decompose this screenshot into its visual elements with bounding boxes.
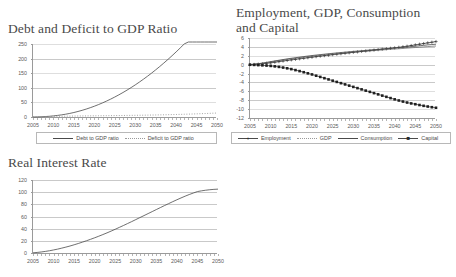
series-marker-square bbox=[435, 106, 438, 109]
x-axis-minor-tick bbox=[287, 119, 288, 121]
series-marker-square bbox=[249, 63, 252, 66]
legend-label: GDP bbox=[320, 135, 338, 141]
legend-item[interactable]: Deficit to GDP ratio bbox=[125, 135, 200, 141]
x-axis-minor-tick bbox=[37, 254, 38, 256]
x-axis-minor-tick bbox=[320, 119, 321, 121]
series-marker-square bbox=[398, 99, 401, 102]
x-axis-minor-tick bbox=[362, 119, 363, 121]
series-marker-square bbox=[364, 89, 367, 92]
x-axis-minor-tick bbox=[139, 118, 140, 120]
x-axis-minor-tick bbox=[419, 119, 420, 121]
x-axis-minor-tick bbox=[193, 254, 194, 256]
x-axis-minor-tick bbox=[188, 118, 189, 120]
plot-area-debt-deficit: 2502001501005002005201020152020202520302… bbox=[0, 0, 228, 146]
x-axis-minor-tick bbox=[329, 119, 330, 121]
x-axis-minor-tick bbox=[312, 119, 313, 121]
x-axis-minor-tick bbox=[308, 119, 309, 121]
legend-item[interactable]: Debt to GDP ratio bbox=[53, 135, 124, 141]
x-axis-minor-tick bbox=[74, 254, 75, 256]
x-axis-minor-tick bbox=[164, 118, 165, 120]
series-marker-square bbox=[352, 86, 355, 89]
x-axis-minor-tick bbox=[213, 118, 214, 120]
x-axis-minor-tick bbox=[206, 254, 207, 256]
series-marker-square bbox=[381, 94, 384, 97]
x-axis-minor-tick bbox=[143, 118, 144, 120]
series-marker-square bbox=[278, 66, 281, 69]
x-axis-minor-tick bbox=[74, 118, 75, 120]
x-axis-minor-tick bbox=[218, 254, 219, 256]
series-marker-square bbox=[290, 68, 293, 71]
x-axis-minor-tick bbox=[279, 119, 280, 121]
series-marker-square bbox=[348, 84, 351, 87]
chart-panel-employment-gdp: Employment, GDP, Consumption and Capital… bbox=[228, 0, 456, 150]
x-axis-minor-tick bbox=[82, 254, 83, 256]
legend-item[interactable]: +Employment bbox=[238, 135, 297, 141]
x-axis-minor-tick bbox=[399, 119, 400, 121]
legend-label: Consumption bbox=[361, 135, 399, 141]
legend-employment-gdp: +EmploymentGDPConsumption■Capital bbox=[231, 132, 451, 144]
x-axis-minor-tick bbox=[386, 119, 387, 121]
series-marker-square bbox=[340, 82, 343, 85]
series-layer bbox=[33, 180, 218, 253]
x-axis-minor-tick bbox=[202, 254, 203, 256]
series-marker-square bbox=[422, 105, 425, 108]
x-axis-minor-tick bbox=[86, 118, 87, 120]
plot-area-real-interest-rate: 1201008060402002005201020152020202520302… bbox=[0, 148, 240, 277]
x-axis-minor-tick bbox=[177, 254, 178, 256]
series-marker-square bbox=[373, 92, 376, 95]
x-axis-minor-tick bbox=[333, 119, 334, 121]
x-axis-minor-tick bbox=[180, 118, 181, 120]
x-axis-minor-tick bbox=[172, 118, 173, 120]
x-axis-minor-tick bbox=[119, 118, 120, 120]
x-axis-minor-tick bbox=[127, 118, 128, 120]
x-axis-minor-tick bbox=[62, 254, 63, 256]
x-axis-minor-tick bbox=[78, 254, 79, 256]
x-axis-minor-tick bbox=[90, 118, 91, 120]
x-axis-minor-tick bbox=[58, 118, 59, 120]
y-axis-tick-label: -6 bbox=[222, 88, 244, 94]
x-axis-minor-tick bbox=[148, 254, 149, 256]
x-axis-minor-tick bbox=[95, 254, 96, 256]
series-marker-square bbox=[331, 79, 334, 82]
x-axis-minor-tick bbox=[94, 118, 95, 120]
series-marker-square bbox=[393, 98, 396, 101]
series-marker-square bbox=[414, 103, 417, 106]
x-axis-minor-tick bbox=[262, 119, 263, 121]
x-axis-minor-tick bbox=[45, 118, 46, 120]
x-axis-minor-tick bbox=[82, 118, 83, 120]
x-axis-minor-tick bbox=[316, 119, 317, 121]
x-axis-minor-tick bbox=[374, 119, 375, 121]
x-axis-minor-tick bbox=[70, 254, 71, 256]
x-axis-minor-tick bbox=[424, 119, 425, 121]
x-axis-minor-tick bbox=[53, 118, 54, 120]
series-marker-square bbox=[377, 93, 380, 96]
x-axis-minor-tick bbox=[192, 118, 193, 120]
series-marker-square bbox=[294, 69, 297, 72]
x-axis-minor-tick bbox=[254, 119, 255, 121]
series-marker-square bbox=[406, 101, 409, 104]
x-axis-minor-tick bbox=[49, 254, 50, 256]
legend-swatch bbox=[125, 135, 145, 141]
series-marker-square bbox=[431, 106, 434, 109]
x-axis-minor-tick bbox=[304, 119, 305, 121]
y-axis-tick-label: 50 bbox=[5, 99, 27, 105]
legend-item[interactable]: Consumption bbox=[338, 135, 399, 141]
series-marker-plus bbox=[401, 45, 404, 48]
y-axis-tick-label: 150 bbox=[5, 70, 27, 76]
x-axis-minor-tick bbox=[366, 119, 367, 121]
legend-marker-plus: + bbox=[246, 135, 250, 141]
y-axis-tick-label: -10 bbox=[222, 106, 244, 112]
series-marker-plus bbox=[426, 41, 429, 44]
legend-item[interactable]: GDP bbox=[297, 135, 338, 141]
x-axis-minor-tick bbox=[168, 118, 169, 120]
y-axis-tick-label: -8 bbox=[222, 97, 244, 103]
plot-area-employment-gdp: 6420-2-4-6-8-10-122005201020152020202520… bbox=[228, 0, 456, 150]
x-axis-minor-tick bbox=[345, 119, 346, 121]
legend-item[interactable]: ■Capital bbox=[398, 135, 444, 141]
y-axis-tick-label: 0 bbox=[5, 250, 27, 256]
x-axis-minor-tick bbox=[217, 118, 218, 120]
x-axis-minor-tick bbox=[111, 118, 112, 120]
x-axis-minor-tick bbox=[189, 254, 190, 256]
series-marker-square bbox=[319, 76, 322, 79]
x-axis-minor-tick bbox=[152, 118, 153, 120]
